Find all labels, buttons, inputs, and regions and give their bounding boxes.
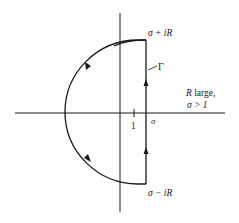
condition-line-1: R large, [185, 88, 215, 98]
contour-diagram: σ + iR σ − iR Γ R large, σ > 1 1 σ [0, 0, 239, 223]
arrow-up-icon [144, 147, 149, 154]
condition-line-1-rest: large, [192, 88, 216, 98]
condition-line-2: σ > 1 [187, 100, 208, 110]
gamma-leader-line [148, 66, 157, 70]
tick-one-label: 1 [131, 121, 136, 131]
arrow-up-icon [144, 79, 149, 86]
gamma-label: Γ [158, 61, 164, 72]
sigma-axis-label: σ [151, 116, 156, 126]
arrow-down-left-icon [85, 62, 91, 70]
bottom-endpoint-label: σ − iR [148, 188, 172, 198]
top-endpoint-label: σ + iR [148, 28, 172, 38]
